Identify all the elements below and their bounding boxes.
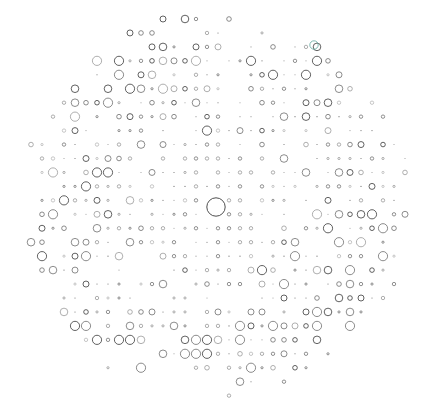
grid-dot bbox=[294, 74, 295, 75]
grid-dot bbox=[261, 339, 262, 340]
grid-dot bbox=[195, 130, 196, 131]
grid-dot bbox=[173, 172, 174, 173]
grid-dot bbox=[404, 158, 405, 159]
grid-dot bbox=[162, 311, 163, 312]
grid-dot bbox=[250, 339, 251, 340]
grid-dot bbox=[228, 256, 229, 257]
grid-dot bbox=[184, 102, 185, 103]
grid-dot bbox=[283, 74, 284, 75]
grid-dot bbox=[228, 339, 229, 340]
grid-dot bbox=[206, 102, 207, 103]
grid-dot bbox=[250, 46, 251, 47]
grid-dot bbox=[206, 297, 207, 298]
grid-dot bbox=[74, 311, 75, 312]
grid-dot bbox=[294, 46, 295, 47]
grid-dot bbox=[85, 214, 86, 215]
grid-dot bbox=[250, 130, 251, 131]
grid-dot bbox=[107, 144, 108, 145]
grid-dot bbox=[206, 74, 207, 75]
grid-dot bbox=[250, 381, 251, 382]
grid-dot bbox=[239, 144, 240, 145]
grid-dot bbox=[206, 256, 207, 257]
grid-dot bbox=[173, 144, 174, 145]
grid-dot bbox=[261, 60, 262, 61]
grid-dot bbox=[305, 200, 306, 201]
grid-dot bbox=[294, 297, 295, 298]
grid-dot bbox=[173, 200, 174, 201]
grid-dot bbox=[162, 172, 163, 173]
grid-dot bbox=[239, 102, 240, 103]
grid-dot bbox=[173, 353, 174, 354]
grid-dot bbox=[294, 283, 295, 284]
grid-dot bbox=[140, 172, 141, 173]
grid-dot bbox=[195, 214, 196, 215]
grid-dot bbox=[272, 297, 273, 298]
grid-dot bbox=[272, 88, 273, 89]
grid-dot bbox=[272, 283, 273, 284]
grid-dot bbox=[305, 256, 306, 257]
grid-dot bbox=[162, 214, 163, 215]
grid-dot bbox=[206, 186, 207, 187]
grid-dot bbox=[283, 102, 284, 103]
grid-dot bbox=[283, 172, 284, 173]
grid-dot bbox=[217, 283, 218, 284]
grid-dot bbox=[283, 256, 284, 257]
grid-dot bbox=[338, 116, 339, 117]
grid-dot bbox=[195, 242, 196, 243]
grid-dot bbox=[118, 270, 119, 271]
grid-dot bbox=[107, 283, 108, 284]
grid-dot bbox=[129, 297, 130, 298]
grid-dot bbox=[206, 60, 207, 61]
circle-grid-pattern bbox=[0, 0, 425, 414]
grid-dot bbox=[283, 144, 284, 145]
grid-dot bbox=[118, 172, 119, 173]
grid-dot bbox=[250, 116, 251, 117]
grid-dot bbox=[283, 60, 284, 61]
grid-dot bbox=[261, 214, 262, 215]
grid-dot bbox=[63, 158, 64, 159]
grid-dot bbox=[371, 130, 372, 131]
grid-dot bbox=[107, 256, 108, 257]
grid-dot bbox=[195, 116, 196, 117]
grid-dot bbox=[195, 144, 196, 145]
background-rect bbox=[0, 0, 425, 414]
grid-dot bbox=[360, 186, 361, 187]
grid-dot bbox=[316, 256, 317, 257]
grid-dot bbox=[162, 130, 163, 131]
grid-dot bbox=[371, 297, 372, 298]
grid-dot bbox=[228, 353, 229, 354]
grid-dot bbox=[349, 200, 350, 201]
grid-dot bbox=[74, 144, 75, 145]
grid-dot bbox=[239, 256, 240, 257]
grid-dot bbox=[228, 242, 229, 243]
grid-dot bbox=[305, 270, 306, 271]
grid-dot bbox=[228, 158, 229, 159]
grid-dot bbox=[239, 116, 240, 117]
grid-dot bbox=[206, 242, 207, 243]
grid-dot bbox=[74, 297, 75, 298]
grid-dot bbox=[228, 325, 229, 326]
grid-dot bbox=[228, 60, 229, 61]
grid-dot bbox=[294, 88, 295, 89]
grid-dot bbox=[294, 172, 295, 173]
grid-dot bbox=[228, 172, 229, 173]
grid-dot bbox=[206, 228, 207, 229]
grid-dot bbox=[283, 214, 284, 215]
grid-dot bbox=[360, 130, 361, 131]
grid-dot bbox=[327, 214, 328, 215]
grid-dot bbox=[283, 186, 284, 187]
grid-dot bbox=[349, 228, 350, 229]
grid-dot bbox=[360, 158, 361, 159]
grid-dot bbox=[96, 283, 97, 284]
grid-dot bbox=[184, 186, 185, 187]
grid-dot bbox=[162, 200, 163, 201]
grid-dot bbox=[129, 214, 130, 215]
grid-dot bbox=[63, 270, 64, 271]
grid-dot bbox=[228, 186, 229, 187]
grid-dot bbox=[173, 228, 174, 229]
grid-dot bbox=[107, 242, 108, 243]
grid-dot bbox=[305, 60, 306, 61]
grid-dot bbox=[140, 102, 141, 103]
grid-dot bbox=[74, 158, 75, 159]
grid-dot bbox=[173, 186, 174, 187]
